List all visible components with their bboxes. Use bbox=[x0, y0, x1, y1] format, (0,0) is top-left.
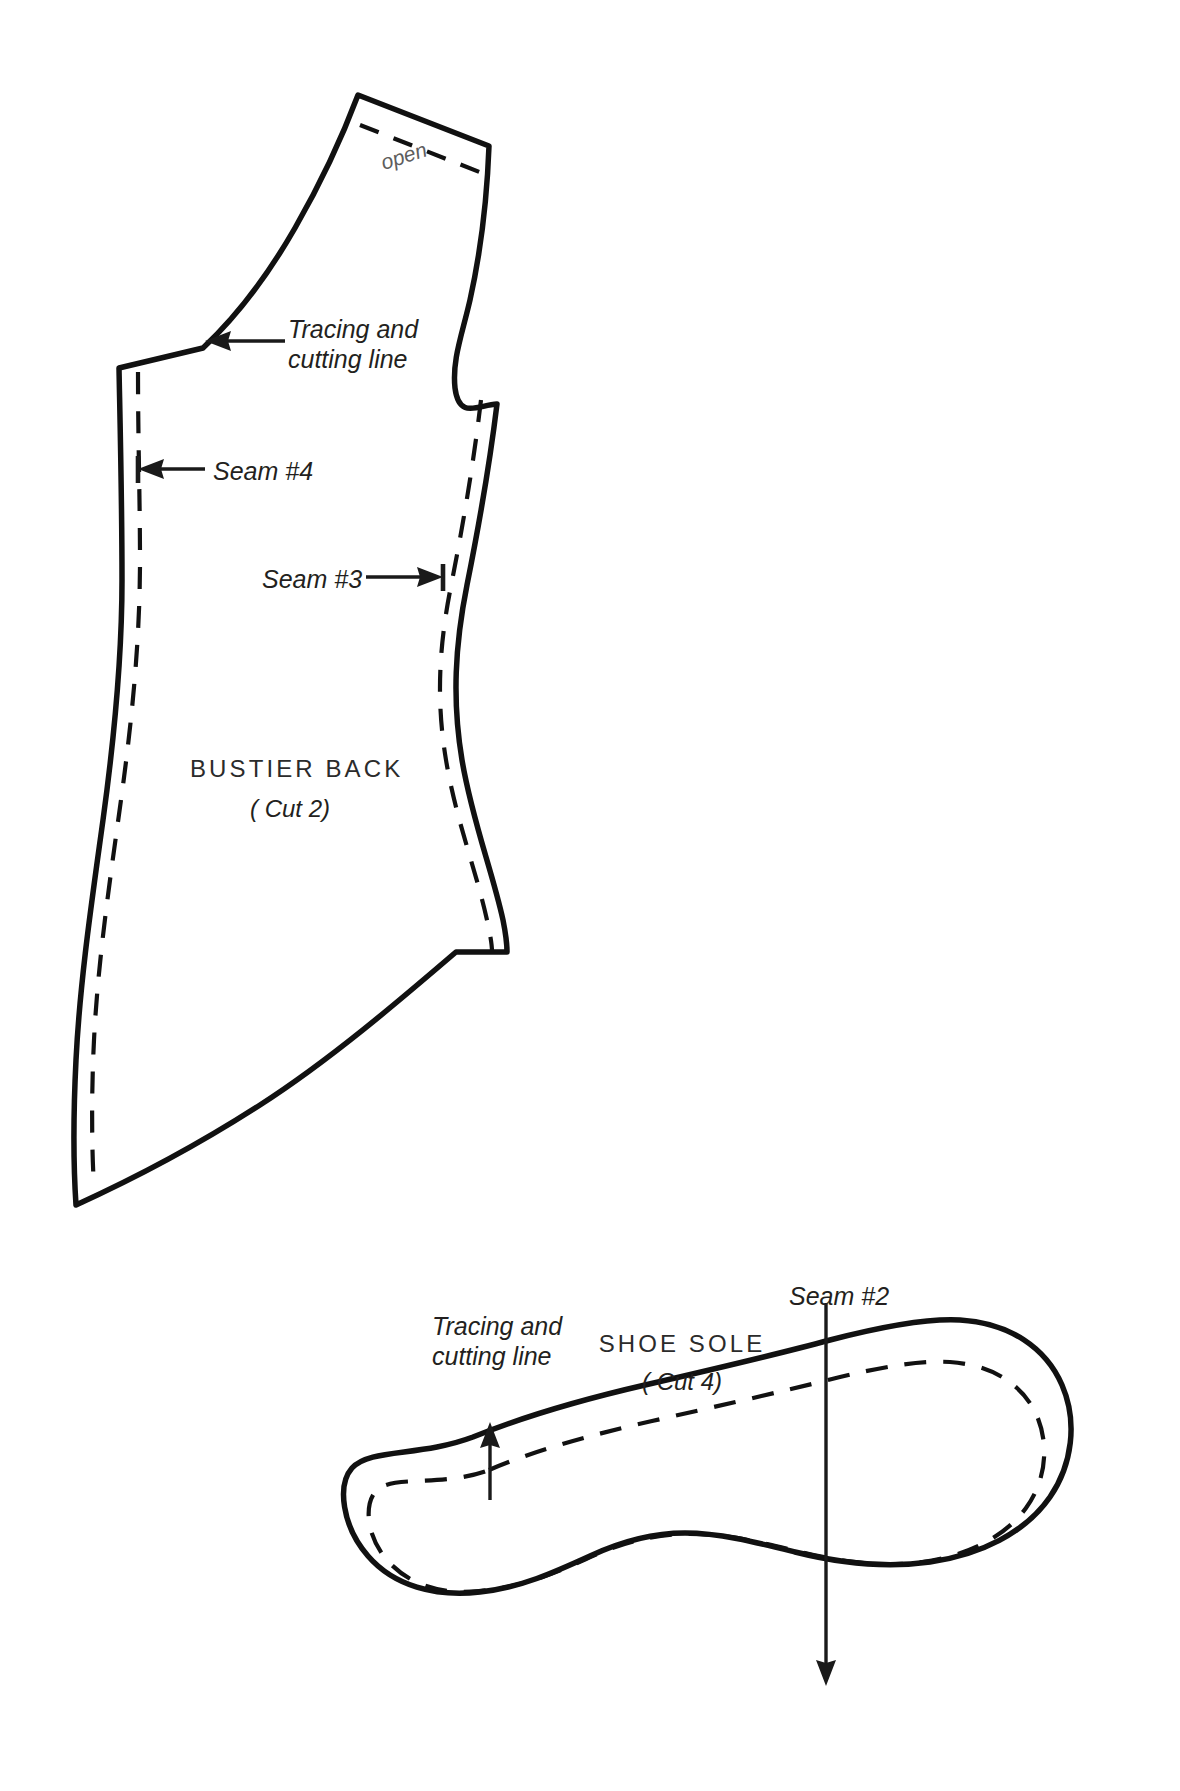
pattern-drawing bbox=[0, 0, 1180, 1791]
tracing-cutting-line-label-bustier: Tracing andcutting line bbox=[288, 315, 418, 374]
tracing-cutting-line2: cutting line bbox=[288, 345, 408, 373]
seam-3-label: Seam #3 bbox=[262, 565, 362, 595]
tracing-cutting-sole-line1: Tracing and bbox=[432, 1312, 562, 1340]
bustier-back-piece bbox=[74, 95, 507, 1205]
seam-2-label: Seam #2 bbox=[789, 1282, 889, 1312]
tracing-cutting-sole-line2: cutting line bbox=[432, 1342, 552, 1370]
piece-title-shoe-sole: SHOE SOLE bbox=[582, 1330, 782, 1358]
piece-cut-count-shoe-sole: ( Cut 4) bbox=[582, 1368, 782, 1396]
pattern-sheet: open Tracing andcutting line Seam #4 Sea… bbox=[0, 0, 1180, 1791]
piece-cut-count-bustier-back: ( Cut 2) bbox=[190, 795, 390, 823]
piece-title-bustier-back: BUSTIER BACK bbox=[190, 755, 390, 783]
seam-4-label: Seam #4 bbox=[213, 457, 313, 487]
tracing-cutting-line-label-sole: Tracing andcutting line bbox=[432, 1312, 562, 1371]
tracing-cutting-line1: Tracing and bbox=[288, 315, 418, 343]
